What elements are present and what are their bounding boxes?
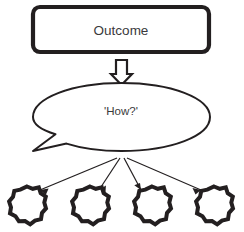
method-gear-2[interactable]: [72, 187, 109, 225]
gear-icon[interactable]: [9, 187, 46, 225]
method-gear-4[interactable]: [196, 187, 233, 225]
how-bubble-node[interactable]: 'How?': [33, 83, 210, 151]
down-block-arrow-icon: [111, 60, 132, 85]
outcome-label: Outcome: [94, 23, 149, 38]
gear-icon[interactable]: [134, 187, 171, 225]
method-gear-1[interactable]: [9, 187, 46, 225]
gear-icon[interactable]: [72, 187, 109, 225]
how-label: 'How?': [104, 105, 138, 117]
method-gear-3[interactable]: [134, 187, 171, 225]
outcome-node[interactable]: Outcome: [33, 7, 209, 52]
diagram-canvas: Outcome 'How?': [0, 0, 244, 232]
gear-icon[interactable]: [196, 187, 233, 225]
diagram-root: Outcome 'How?': [0, 0, 244, 232]
